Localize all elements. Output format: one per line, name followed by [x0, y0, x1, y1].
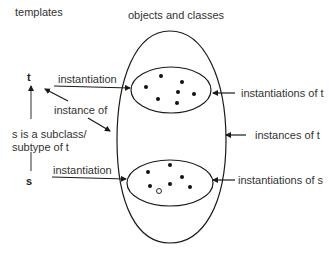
instance-dots-t: [144, 74, 196, 105]
outer-ellipse-instances-of-t: [117, 31, 226, 243]
label-instantiations-of-t: instantiations of t: [241, 87, 324, 100]
instantiation-arrow-t: [54, 86, 130, 88]
instantiation-arrow-s: [52, 177, 126, 179]
heading-templates: templates: [15, 6, 63, 19]
label-subclass-line1: s is a subclass/: [12, 128, 87, 141]
inner-ellipse-t: [131, 67, 211, 113]
label-instantiation-s: instantiation: [53, 164, 112, 177]
instance-dots-s: [146, 163, 192, 189]
label-instantiation-t: instantiation: [58, 73, 117, 86]
heading-objects-and-classes: objects and classes: [128, 9, 224, 22]
open-instance-dot: [157, 189, 162, 194]
variable-t: t: [27, 71, 31, 84]
label-instantiations-of-s: instantiations of s: [238, 174, 323, 187]
diagram-canvas: [0, 0, 329, 253]
label-instance-of: instance of: [54, 104, 107, 117]
label-subclass-line2: subtype of t: [12, 141, 69, 154]
variable-s: s: [26, 175, 32, 188]
label-instances-of-t: instances of t: [255, 129, 320, 142]
instance-of-arrow-down: [88, 118, 110, 131]
instance-of-arrow-up: [45, 89, 68, 101]
